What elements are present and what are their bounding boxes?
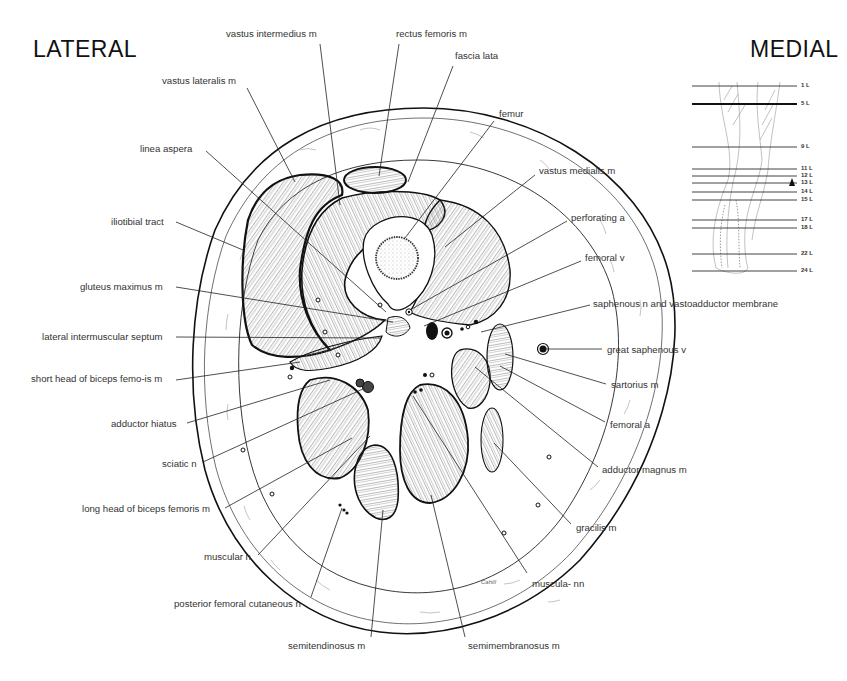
- leader-line-sartorius-m: [505, 354, 606, 384]
- label-femoral-v: femoral v: [585, 252, 624, 263]
- level-label: 17 L: [801, 216, 813, 222]
- label-gluteus-maximus-m: gluteus maximus m: [80, 281, 163, 292]
- level-label: 24 L: [801, 267, 813, 273]
- artist-signature: Cahill: [481, 579, 496, 585]
- level-label: 9 L: [801, 143, 810, 149]
- label-lateral-intermuscular-septum: lateral intermuscular septum: [42, 331, 163, 342]
- label-muscular-nn: muscula- nn: [532, 578, 584, 589]
- label-long-head-of-biceps-femoris-m: long head of biceps femoris m: [82, 503, 210, 514]
- level-label: 15 L: [801, 196, 813, 202]
- label-great-saphenous-v: great saphenous v: [607, 344, 686, 355]
- label-sciatic-n: sciatic n: [162, 458, 197, 469]
- leader-line-posterior-femoral-cutaneous-n: [311, 508, 342, 597]
- label-iliotibial-tract: iliotibial tract: [111, 216, 164, 227]
- skin-outline: [193, 108, 675, 634]
- level-indicator-inset: [692, 82, 797, 273]
- level-label: 11 L: [801, 165, 813, 171]
- leader-line-femoral-a: [500, 366, 605, 422]
- linea-aspera-structure: [386, 316, 410, 336]
- semimembranosus-muscle: [400, 384, 468, 503]
- leader-line-semimembranosus-m: [431, 495, 465, 637]
- label-semitendinosus-m: semitendinosus m: [288, 640, 365, 651]
- label-fascia-lata: fascia lata: [455, 50, 498, 61]
- label-femur: femur: [499, 108, 524, 119]
- level-label: 12 L: [801, 172, 813, 178]
- rectus-femoris-muscle: [344, 167, 406, 193]
- semitendinosus-muscle: [354, 445, 398, 519]
- label-vastus-intermedius-m: vastus intermedius m: [226, 28, 317, 39]
- leader-line-vastus-lateralis-m: [247, 88, 295, 182]
- leader-line-short-head-of-biceps-femoris-m: [176, 362, 300, 380]
- level-label: 22 L: [801, 250, 813, 256]
- label-rectus-femoris-m: rectus femoris m: [396, 28, 467, 39]
- label-vastus-medialis-m: vastus medialis m: [539, 165, 615, 176]
- label-sartorius-m: sartorius m: [611, 379, 658, 390]
- label-semimembranosus-m: semimembranosus m: [468, 640, 560, 651]
- label-perforating-a: perforating a: [571, 212, 625, 223]
- knee-outline-sketch: [713, 82, 780, 273]
- gracilis-muscle: [481, 408, 503, 472]
- leader-line-fascia-lata: [408, 66, 453, 182]
- label-adductor-hiatus: adductor hiatus: [111, 418, 177, 429]
- level-label: 18 L: [801, 224, 813, 230]
- label-gracilis-m: gracilis m: [576, 522, 617, 533]
- thigh-cross-section-diagram: LATERAL MEDIAL: [0, 0, 847, 681]
- level-label: 1 L: [801, 82, 810, 88]
- current-level-arrow-icon: [789, 178, 795, 186]
- label-saphenous-n-and-vastoadductor-membrane: saphenous n and vastoadductor membrane: [593, 298, 778, 309]
- label-femoral-a: femoral a: [610, 419, 650, 430]
- label-short-head-of-biceps-femoris-m: short head of biceps femo-is m: [31, 373, 162, 384]
- label-posterior-femoral-cutaneous-n: posterior femoral cutaneous n: [174, 598, 301, 609]
- level-label: 5 L: [801, 100, 810, 106]
- label-linea-aspera: linea aspera: [140, 143, 192, 154]
- leader-line-semitendinosus-m: [371, 510, 383, 637]
- level-label: 13 L: [801, 179, 813, 185]
- leader-line-gracilis-m: [494, 443, 571, 524]
- level-label: 14 L: [801, 188, 813, 194]
- label-muscular-n: muscular n: [204, 551, 251, 562]
- adductor-magnus-muscle: [452, 349, 491, 408]
- label-vastus-lateralis-m: vastus lateralis m: [162, 75, 236, 86]
- label-adductor-magnus-m: adductor magnus m: [602, 464, 687, 475]
